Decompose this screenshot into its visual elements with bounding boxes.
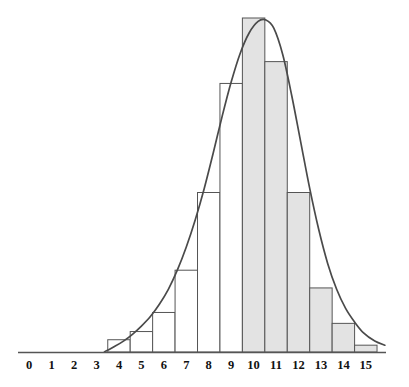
- x-tick-label-11: 11: [264, 358, 288, 372]
- histogram-bar: [242, 18, 264, 352]
- x-tick-label-6: 6: [152, 358, 176, 372]
- x-tick-label-4: 4: [107, 358, 131, 372]
- histogram-bar: [198, 193, 220, 353]
- x-tick-label-13: 13: [309, 358, 333, 372]
- histogram-bar: [220, 83, 242, 352]
- x-tick-label-14: 14: [331, 358, 355, 372]
- x-tick-label-1: 1: [40, 358, 64, 372]
- x-tick-label-5: 5: [129, 358, 153, 372]
- bars-group: [108, 18, 377, 352]
- x-tick-label-12: 12: [287, 358, 311, 372]
- histogram-bar: [265, 62, 287, 352]
- histogram-bar: [153, 312, 175, 352]
- histogram-bar: [310, 288, 332, 352]
- x-tick-label-9: 9: [219, 358, 243, 372]
- x-tick-label-8: 8: [197, 358, 221, 372]
- histogram-bar: [175, 270, 197, 352]
- x-tick-label-2: 2: [62, 358, 86, 372]
- histogram-plot: [0, 0, 409, 387]
- x-tick-label-10: 10: [242, 358, 266, 372]
- histogram-bar: [332, 323, 354, 352]
- x-tick-label-0: 0: [17, 358, 41, 372]
- x-tick-label-15: 15: [354, 358, 378, 372]
- histogram-figure: 0123456789101112131415: [0, 0, 409, 387]
- histogram-bar: [355, 345, 377, 352]
- histogram-bar: [108, 340, 130, 352]
- x-tick-label-3: 3: [85, 358, 109, 372]
- x-tick-label-7: 7: [174, 358, 198, 372]
- histogram-bar: [130, 332, 152, 352]
- histogram-bar: [287, 193, 309, 353]
